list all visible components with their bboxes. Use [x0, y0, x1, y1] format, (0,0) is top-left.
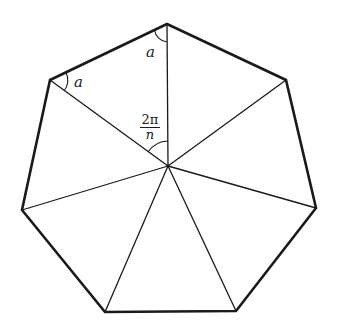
spoke-v3: [168, 166, 236, 311]
heptagon-diagram: a a 2π n: [0, 0, 342, 336]
label-angle-top: a: [146, 43, 155, 61]
angle-arc-center: [148, 141, 168, 152]
spoke-v4: [105, 166, 168, 312]
spokes: [22, 24, 316, 312]
central-angle-denominator: n: [146, 127, 154, 142]
center-point: [166, 164, 169, 167]
spoke-v5: [22, 166, 168, 210]
spoke-v1: [168, 80, 286, 166]
label-angle-left: a: [74, 73, 83, 91]
angle-arc-left: [64, 73, 68, 92]
spoke-v0: [167, 24, 168, 166]
label-central-angle: 2π n: [140, 112, 160, 142]
angle-arc-top: [155, 30, 168, 42]
spoke-v2: [168, 166, 316, 208]
central-angle-numerator: 2π: [142, 112, 159, 127]
